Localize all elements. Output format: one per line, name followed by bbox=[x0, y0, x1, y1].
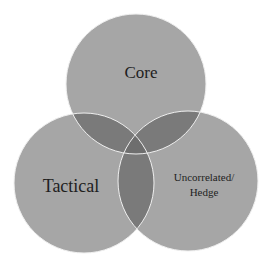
tactical-label: Tactical bbox=[43, 176, 100, 196]
core-label: Core bbox=[124, 63, 157, 82]
uncorrelated-label-line2: Hedge bbox=[190, 186, 219, 198]
uncorrelated-label-line1: Uncorrelated/ bbox=[174, 171, 235, 183]
venn-diagram: Core Tactical Uncorrelated/ Hedge bbox=[0, 0, 271, 270]
